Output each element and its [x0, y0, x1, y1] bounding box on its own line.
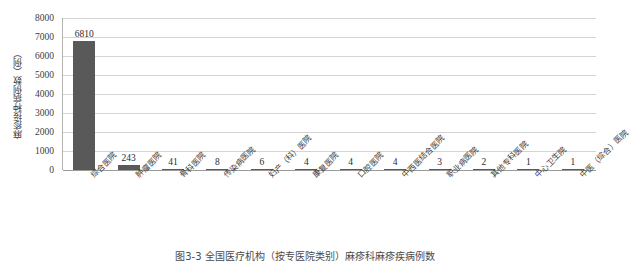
- bar: [118, 165, 140, 170]
- bar-group: 3: [417, 18, 461, 170]
- x-tick-label: 中西医结合医院: [399, 172, 407, 180]
- bar-value-label: 6: [259, 157, 264, 167]
- bar-value-label: 4: [304, 157, 309, 167]
- bar-value-label: 4: [348, 157, 353, 167]
- bar: [73, 41, 95, 170]
- x-tick-label: 骨科医院: [177, 172, 185, 180]
- y-tick-label: 6000: [35, 51, 54, 61]
- y-axis-tick-labels: 800070006000500040003000200010000: [0, 18, 58, 170]
- bar-group: 6810: [62, 18, 106, 170]
- bar-value-label: 1: [570, 157, 575, 167]
- x-tick-label: 综合医院: [88, 172, 96, 180]
- bar-group: 8: [195, 18, 239, 170]
- figure-caption: 图3-3 全国医疗机构（按专医院类别）麻疹科麻疹疾病例数: [0, 250, 610, 262]
- y-tick-label: 3000: [35, 108, 54, 118]
- y-tick-label: 8000: [35, 13, 54, 23]
- x-tick-label: 中心卫生院: [532, 172, 540, 180]
- x-tick-label: 中医（综合）医院: [577, 172, 585, 180]
- x-axis-tick-labels: 综合医院肿瘤医院骨科医院传染病医院妇产（科）医院康复医院口腔医院中西医结合医院职…: [62, 172, 595, 242]
- bar-value-label: 8: [215, 157, 220, 167]
- bar-value-label: 1: [526, 157, 531, 167]
- bar-group: 4: [329, 18, 373, 170]
- x-tick-label: 职业病医院: [444, 172, 452, 180]
- bar-value-label: 4: [393, 157, 398, 167]
- x-tick-label: 妇产（科）医院: [266, 172, 274, 180]
- y-tick-label: 2000: [35, 127, 54, 137]
- bar-value-label: 243: [121, 153, 135, 163]
- bar-group: 243: [106, 18, 150, 170]
- x-tick-label: 口腔医院: [355, 172, 363, 180]
- bar-value-label: 3: [437, 157, 442, 167]
- y-tick-label: 5000: [35, 70, 54, 80]
- x-tick-label: 传染病医院: [221, 172, 229, 180]
- bar-group: 41: [151, 18, 195, 170]
- y-tick-label: 0: [49, 165, 54, 175]
- x-tick-label: 康复医院: [310, 172, 318, 180]
- bar-group: 4: [373, 18, 417, 170]
- bar-group: 1: [551, 18, 595, 170]
- bar-group: 2: [462, 18, 506, 170]
- bar-value-label: 2: [482, 157, 487, 167]
- y-tick-label: 1000: [35, 146, 54, 156]
- bar-group: 6: [240, 18, 284, 170]
- x-tick-label: 其他专科医院: [488, 172, 496, 180]
- bar-value-label: 6810: [75, 29, 94, 39]
- x-tick-label: 肿瘤医院: [133, 172, 141, 180]
- bar-value-label: 41: [168, 157, 178, 167]
- y-tick-label: 7000: [35, 32, 54, 42]
- y-tick-label: 4000: [35, 89, 54, 99]
